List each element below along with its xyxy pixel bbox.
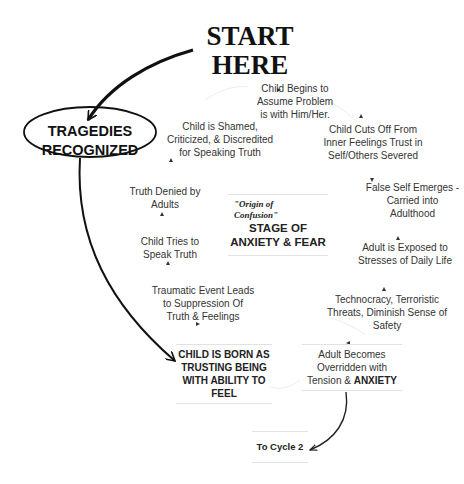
node-line: Adulthood	[365, 207, 460, 220]
node-child-cuts-off: Child Cuts Off From Inner Feelings Trust…	[313, 123, 433, 162]
node-line: Speak Truth	[130, 248, 210, 261]
node-line: Adult is Exposed to	[350, 241, 460, 254]
node-line: Assume Problem	[240, 95, 350, 108]
node-truth-denied: Truth Denied by Adults	[125, 185, 205, 211]
node-line: Child Begins to	[240, 82, 350, 95]
node-adult-exposed: Adult is Exposed to Stresses of Daily Li…	[350, 241, 460, 267]
node-line: Adults	[125, 198, 205, 211]
node-technocracy: Technocracy, Terroristic Threats, Dimini…	[322, 293, 452, 332]
node-line: WITH ABILITY TO	[176, 374, 272, 387]
anxiety-emphasis: ANXIETY	[354, 375, 397, 386]
node-line: Inner Feelings Trust in	[313, 136, 433, 149]
to-cycle-2-node: To Cycle 2	[252, 431, 308, 463]
node-line: Child Tries to	[130, 235, 210, 248]
origin-line2: Confusion"	[228, 210, 328, 221]
node-adult-becomes: Adult Becomes Overridden with Tension & …	[302, 344, 402, 391]
node-child-shamed: Child is Shamed, Criticized, & Discredit…	[155, 120, 285, 159]
node-child-begins: Child Begins to Assume Problem is with H…	[240, 82, 350, 121]
node-line: Stresses of Daily Life	[350, 254, 460, 267]
node-line: Adult Becomes	[302, 348, 402, 361]
to-cycle-2-label: To Cycle 2	[257, 441, 304, 452]
center-stage-box: "Origin of Confusion" STAGE OF ANXIETY &…	[228, 194, 328, 256]
tragedies-line1: TRAGEDIES	[25, 122, 155, 141]
tragedies-recognized-node: TRAGEDIES RECOGNIZED	[25, 122, 155, 160]
node-line: for Speaking Truth	[155, 146, 285, 159]
node-line: Safety	[322, 319, 452, 332]
node-line: TRUSTING BEING	[176, 361, 272, 374]
tragedies-line2: RECOGNIZED	[25, 141, 155, 160]
node-child-tries: Child Tries to Speak Truth	[130, 235, 210, 261]
start-line2: HERE	[190, 51, 310, 80]
to-cycle-2-arrow	[310, 392, 347, 450]
stage-line1: STAGE OF	[228, 221, 328, 235]
start-line1: START	[190, 22, 310, 51]
node-line: Truth & Feelings	[143, 310, 263, 323]
stage-line2: ANXIETY & FEAR	[228, 235, 328, 249]
node-child-born: CHILD IS BORN AS TRUSTING BEING WITH ABI…	[176, 344, 272, 404]
node-line: Truth Denied by	[125, 185, 205, 198]
node-line: Self/Others Severed	[313, 149, 433, 162]
node-line: FEEL	[176, 387, 272, 400]
node-line: Overridden with	[302, 361, 402, 374]
node-line: Technocracy, Terroristic	[322, 293, 452, 306]
node-line: False Self Emerges -	[365, 181, 460, 194]
start-here-label: START HERE	[190, 22, 310, 80]
node-line-text: Tension &	[307, 375, 354, 386]
node-line: to Suppression Of	[143, 297, 263, 310]
node-line: Child Cuts Off From	[313, 123, 433, 136]
node-line: Carried into	[365, 194, 460, 207]
node-line: Child is Shamed,	[155, 120, 285, 133]
origin-line1: "Origin of	[228, 199, 328, 210]
node-line: Threats, Diminish Sense of	[322, 306, 452, 319]
node-false-self: False Self Emerges - Carried into Adulth…	[365, 181, 460, 220]
node-traumatic-event: Traumatic Event Leads to Suppression Of …	[143, 284, 263, 323]
start-arrow	[88, 50, 193, 120]
node-line: CHILD IS BORN AS	[176, 348, 272, 361]
node-line: Criticized, & Discredited	[155, 133, 285, 146]
node-line: Traumatic Event Leads	[143, 284, 263, 297]
node-line: Tension & ANXIETY	[302, 374, 402, 387]
